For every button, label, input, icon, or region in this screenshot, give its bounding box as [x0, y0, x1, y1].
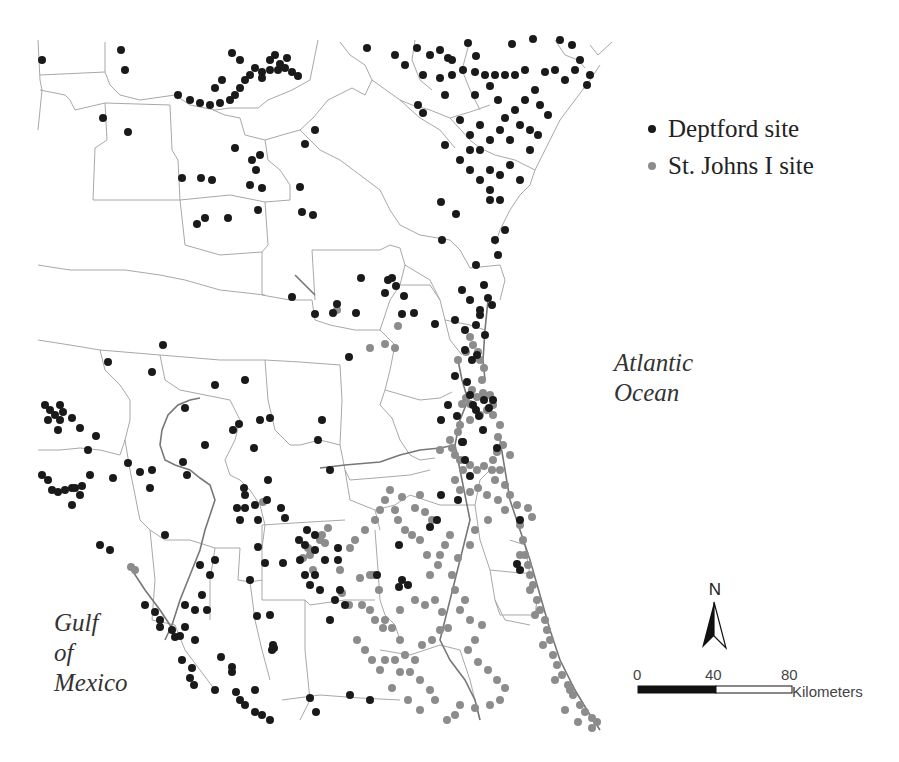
stjohns-site-marker — [361, 646, 369, 654]
deptford-site-marker — [511, 106, 519, 114]
deptford-site-marker — [311, 571, 319, 579]
stjohns-site-marker — [526, 586, 534, 594]
deptford-site-marker — [311, 531, 319, 539]
stjohns-site-marker — [484, 516, 492, 524]
stjohns-site-marker — [576, 701, 584, 709]
deptford-site-marker — [254, 543, 262, 551]
deptford-site-marker — [311, 310, 319, 318]
deptford-site-marker — [241, 504, 249, 512]
deptford-site-marker — [198, 591, 206, 599]
deptford-site-marker — [516, 176, 524, 184]
deptford-site-marker — [501, 71, 509, 79]
deptford-site-marker — [141, 601, 149, 609]
stjohns-site-marker — [418, 641, 426, 649]
deptford-site-marker — [413, 44, 421, 52]
deptford-site-marker — [211, 84, 219, 92]
deptford-site-marker — [529, 35, 537, 43]
deptford-site-marker — [526, 126, 534, 134]
deptford-site-marker — [56, 416, 64, 424]
stjohns-site-marker — [543, 626, 551, 634]
deptford-site-marker — [303, 526, 311, 534]
deptford-site-marker — [426, 51, 434, 59]
deptford-site-marker — [451, 316, 459, 324]
deptford-site-marker — [311, 126, 319, 134]
stjohns-site-marker — [478, 376, 486, 384]
deptford-site-marker — [437, 416, 445, 424]
deptford-site-marker — [448, 56, 456, 64]
stjohns-site-marker — [588, 724, 596, 732]
deptford-site-marker — [461, 326, 469, 334]
stjohns-site-marker — [451, 711, 459, 719]
deptford-site-marker — [235, 420, 243, 428]
deptford-site-marker — [463, 378, 471, 386]
stjohns-site-marker — [546, 636, 554, 644]
deptford-site-marker — [334, 544, 342, 552]
stjohns-site-marker — [489, 411, 497, 419]
stjohns-site-marker — [131, 566, 139, 574]
stjohns-dot-icon — [648, 162, 656, 170]
deptford-site-marker — [331, 596, 339, 604]
stjohns-site-marker — [346, 544, 354, 552]
stjohns-site-marker — [391, 344, 399, 352]
deptford-site-marker — [486, 196, 494, 204]
legend-label: St. Johns I site — [668, 147, 814, 184]
deptford-site-marker — [252, 166, 260, 174]
deptford-site-marker — [241, 701, 249, 709]
legend-item-deptford: Deptford site — [648, 110, 814, 147]
deptford-site-marker — [117, 46, 125, 54]
deptford-site-marker — [329, 309, 337, 317]
deptford-site-marker — [240, 484, 248, 492]
deptford-site-marker — [388, 274, 396, 282]
stjohns-site-marker — [411, 504, 419, 512]
deptford-site-marker — [136, 468, 144, 476]
stjohns-site-marker — [456, 486, 464, 494]
stjohns-site-marker — [466, 488, 474, 496]
map: Deptford site St. Johns I site Atlantic … — [0, 0, 899, 762]
deptford-site-marker — [161, 531, 169, 539]
stjohns-site-marker — [489, 456, 497, 464]
deptford-site-marker — [179, 458, 187, 466]
deptford-site-marker — [521, 66, 529, 74]
deptford-site-marker — [121, 66, 129, 74]
deptford-site-marker — [508, 40, 516, 48]
north-label: N — [698, 580, 732, 600]
label-line: of — [54, 638, 128, 668]
deptford-site-marker — [568, 41, 576, 49]
deptford-site-marker — [44, 476, 52, 484]
deptford-site-marker — [314, 436, 322, 444]
deptford-site-marker — [456, 156, 464, 164]
deptford-site-marker — [484, 294, 492, 302]
stjohns-site-marker — [394, 322, 402, 330]
deptford-site-marker — [228, 668, 236, 676]
deptford-site-marker — [197, 174, 205, 182]
deptford-site-marker — [466, 131, 474, 139]
stjohns-site-marker — [434, 561, 442, 569]
stjohns-site-marker — [411, 656, 419, 664]
legend: Deptford site St. Johns I site — [648, 110, 814, 184]
deptford-site-marker — [480, 281, 488, 289]
deptford-site-marker — [183, 471, 191, 479]
stjohns-site-marker — [336, 566, 344, 574]
deptford-site-marker — [251, 501, 259, 509]
deptford-site-marker — [224, 214, 232, 222]
deptford-site-marker — [159, 341, 167, 349]
stjohns-site-marker — [531, 611, 539, 619]
stjohns-site-marker — [411, 596, 419, 604]
deptford-site-marker — [426, 523, 434, 531]
deptford-site-marker — [392, 282, 400, 290]
deptford-site-marker — [178, 656, 186, 664]
deptford-site-marker — [486, 166, 494, 174]
stjohns-site-marker — [396, 668, 404, 676]
rivers — [130, 275, 600, 730]
deptford-site-marker — [268, 646, 276, 654]
deptford-site-marker — [246, 71, 254, 79]
deptford-site-marker — [466, 146, 474, 154]
deptford-site-marker — [400, 292, 408, 300]
deptford-site-marker — [516, 516, 524, 524]
deptford-site-marker — [473, 351, 481, 359]
stjohns-site-marker — [361, 526, 369, 534]
deptford-site-marker — [258, 184, 266, 192]
deptford-site-marker — [96, 541, 104, 549]
deptford-site-marker — [491, 71, 499, 79]
stjohns-site-marker — [471, 704, 479, 712]
